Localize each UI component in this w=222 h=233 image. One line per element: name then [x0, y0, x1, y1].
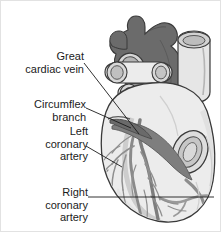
- label-great-cardiac-vein: Great cardiac vein: [2, 50, 84, 75]
- heart-anatomy-figure: Great cardiac vein Circumflex branch Lef…: [0, 0, 222, 233]
- label-left-coronary-artery: Left coronary artery: [2, 125, 88, 163]
- label-circumflex-branch: Circumflex branch: [2, 98, 86, 123]
- brachiocephalic-branch: [110, 31, 127, 49]
- label-right-coronary-artery: Right coronary artery: [2, 186, 88, 224]
